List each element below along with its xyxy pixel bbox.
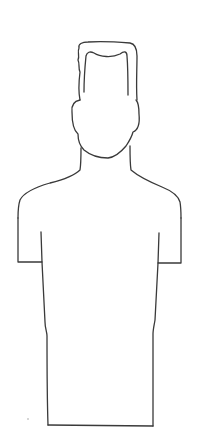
torso-right-outline — [153, 263, 158, 426]
torso-left-outline — [42, 262, 48, 425]
left-sleeve-outline — [18, 218, 42, 262]
speck-mark — [27, 418, 29, 420]
hairline — [84, 52, 128, 95]
torso-bottom-outline — [48, 425, 153, 426]
human-outline-drawing — [0, 0, 201, 446]
right-shoulder-outline — [130, 146, 181, 218]
left-shoulder-outline — [18, 148, 81, 218]
right-sleeve-outline — [158, 218, 181, 263]
face-outline — [72, 100, 139, 158]
